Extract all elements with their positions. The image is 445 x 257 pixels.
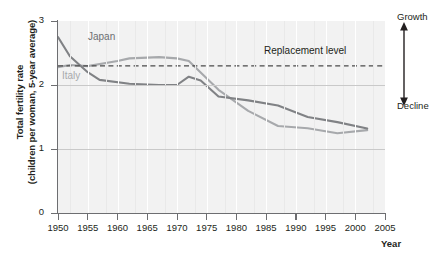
gridline-vertical-1980 (236, 21, 237, 213)
x-tick-1985 (266, 214, 267, 220)
gridline-horizontal-2 (58, 85, 385, 86)
y-tick-2 (51, 85, 58, 86)
x-axis-line (57, 213, 386, 214)
y-tick-label-3: 3 (39, 15, 44, 25)
gridline-vertical-minor-7 (254, 21, 255, 213)
replacement-level-label: Replacement level (264, 45, 346, 56)
y-axis-title-line2: (children per woman, 5-year average) (26, 2, 38, 202)
x-axis-title: Year (381, 238, 401, 249)
series-label-japan: Japan (88, 31, 115, 42)
growth-annotation-label: Growth (397, 11, 428, 22)
fertility-rate-chart: Total fertility rate (children per woman… (0, 0, 445, 257)
gridline-vertical-minor-3 (135, 21, 136, 213)
x-tick-1955 (87, 214, 88, 220)
x-tick-2005 (385, 214, 386, 220)
y-axis-line (57, 20, 58, 214)
x-tick-1980 (236, 214, 237, 220)
series-label-italy: Italy (62, 70, 80, 81)
x-tick-1960 (117, 214, 118, 220)
gridline-vertical-minor-4 (165, 21, 166, 213)
x-tick-2000 (355, 214, 356, 220)
gridline-vertical-1955 (88, 21, 89, 213)
gridline-vertical-1970 (177, 21, 178, 213)
x-tick-1975 (206, 214, 207, 220)
y-tick-label-2: 2 (39, 79, 44, 89)
x-tick-1970 (177, 214, 178, 220)
gridline-horizontal-1 (58, 149, 385, 150)
gridline-vertical-1960 (118, 21, 119, 213)
gridline-vertical-1975 (207, 21, 208, 213)
y-axis-title-line1: Total fertility rate (14, 65, 25, 139)
x-tick-label-2005: 2005 (365, 222, 405, 233)
gridline-vertical-minor-2 (106, 21, 107, 213)
x-tick-1995 (325, 214, 326, 220)
gridline-vertical-minor-11 (373, 21, 374, 213)
gridline-vertical-minor-6 (225, 21, 226, 213)
series-line-italy (58, 57, 367, 133)
x-tick-1990 (295, 214, 296, 220)
y-tick-1 (51, 149, 58, 150)
y-axis-title: Total fertility rate (children per woman… (14, 2, 38, 202)
y-tick-3 (51, 21, 58, 22)
gridline-vertical-1965 (147, 21, 148, 213)
gridline-vertical-minor-5 (195, 21, 196, 213)
gridline-vertical-2000 (355, 21, 356, 213)
x-tick-1965 (147, 214, 148, 220)
y-tick-label-1: 1 (39, 143, 44, 153)
gridline-vertical-minor-1 (70, 21, 71, 213)
y-tick-label-0: 0 (39, 207, 44, 217)
growth-decline-arrow-icon (395, 22, 425, 106)
x-tick-1950 (58, 214, 59, 220)
